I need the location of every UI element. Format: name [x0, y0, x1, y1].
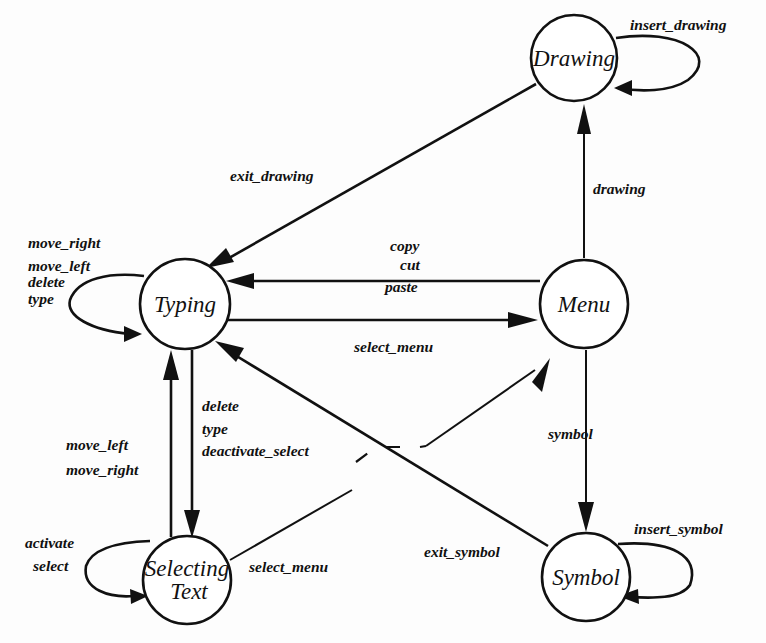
arrowhead-icon [163, 350, 179, 380]
arrowhead-icon [206, 248, 234, 268]
edge-label-move-left-2: move_left [66, 436, 129, 453]
edge-label-type: type [28, 290, 54, 307]
arrowhead-icon [532, 358, 550, 392]
arrowhead-icon [124, 326, 142, 342]
state-label-text: Text [170, 579, 208, 604]
edge-label-delete: delete [28, 273, 65, 290]
state-label-typing: Typing [154, 292, 216, 317]
edge-selecting-self: activate select [25, 534, 150, 604]
edge-menu-to-drawing: drawing [577, 104, 646, 258]
edge-menu-to-symbol: symbol [547, 350, 594, 532]
edge-label-exit-drawing: exit_drawing [230, 167, 314, 184]
edge-label-move-right-2: move_right [66, 461, 139, 478]
edge-label-drawing: drawing [593, 180, 646, 197]
edge-menu-to-typing: copy cut paste [226, 237, 540, 295]
state-drawing: Drawing [531, 15, 617, 101]
arrowhead-icon [226, 273, 254, 289]
arrowhead-icon [578, 502, 594, 532]
state-menu: Menu [540, 260, 628, 348]
edge-typing-to-menu: select_menu [228, 312, 538, 355]
edge-label-paste: paste [383, 278, 418, 295]
edge-label-copy: copy [390, 237, 419, 254]
state-label-drawing: Drawing [532, 46, 615, 71]
edge-label-cut: cut [400, 256, 421, 273]
state-symbol: Symbol [542, 533, 630, 621]
arrowhead-icon [508, 312, 538, 328]
edge-label-delete-2: delete [202, 397, 239, 414]
edge-label-activate: activate [25, 534, 74, 551]
state-diagram: insert_drawing exit_drawing drawing move… [0, 0, 766, 643]
state-label-symbol: Symbol [552, 565, 620, 590]
state-typing: Typing [140, 259, 230, 349]
edge-label-move-left: move_left [28, 257, 91, 274]
edge-label-exit-symbol: exit_symbol [424, 543, 500, 560]
edge-label-select-menu-bottom: select_menu [248, 558, 329, 575]
state-selecting-text: Selecting Text [143, 536, 231, 624]
arrowhead-icon [614, 80, 632, 96]
edge-selecting-to-menu: select_menu [230, 358, 550, 575]
edge-label-insert-symbol: insert_symbol [634, 520, 723, 537]
edge-typing-to-selecting: delete type deactivate_select [184, 350, 309, 538]
edge-label-move-right: move_right [28, 234, 101, 251]
edge-label-deactivate-select: deactivate_select [202, 442, 309, 459]
edge-label-type-2: type [202, 420, 228, 437]
diagram-svg: insert_drawing exit_drawing drawing move… [0, 0, 766, 643]
state-label-selecting: Selecting [145, 556, 229, 581]
edge-label-select: select [32, 557, 69, 574]
edge-symbol-self: insert_symbol [618, 520, 723, 604]
edge-label-select-menu-top: select_menu [353, 338, 434, 355]
edge-selecting-to-typing: move_left move_right [66, 350, 179, 537]
edge-drawing-self: insert_drawing [614, 16, 727, 96]
edge-label-insert-drawing: insert_drawing [630, 16, 727, 33]
edge-typing-self: move_right move_left delete type [28, 234, 144, 342]
arrowhead-icon [577, 104, 591, 134]
edge-drawing-to-typing: exit_drawing [206, 84, 536, 268]
edge-label-symbol: symbol [547, 425, 593, 442]
arrowhead-icon [184, 510, 200, 538]
state-label-menu: Menu [557, 292, 610, 317]
